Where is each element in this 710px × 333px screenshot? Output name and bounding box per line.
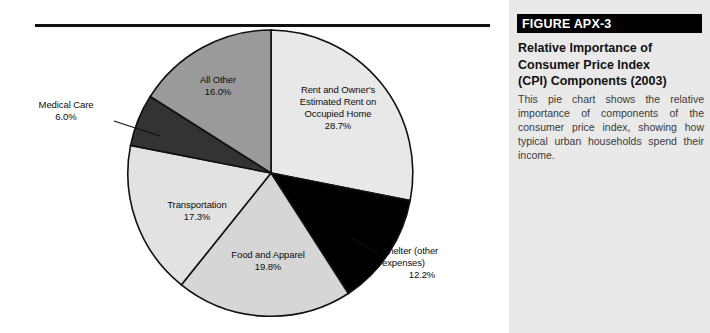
pie-label-transportation: Transportation 17.3% <box>146 199 248 223</box>
figure-title-line2: Consumer Price Index <box>518 58 650 72</box>
pie-label-rent: Rent and Owner's Estimated Rent on Occup… <box>278 84 398 132</box>
figure-title: Relative Importance of Consumer Price In… <box>518 40 704 90</box>
figure-title-line3: (CPI) Components (2003) <box>518 74 667 88</box>
pie-label-all-other-value: 16.0% <box>172 86 264 98</box>
pie-label-transportation-name: Transportation <box>167 199 227 210</box>
pie-label-food-and-apparel-value: 19.8% <box>212 261 324 273</box>
pie-label-shelter: Shelter (other expenses) 12.2% <box>382 245 472 281</box>
pie-label-all-other: All Other 16.0% <box>172 74 264 98</box>
pie-label-rent-line1: Rent and Owner's <box>301 84 375 95</box>
pie-label-transportation-value: 17.3% <box>146 211 248 223</box>
pie-label-medical-care-value: 6.0% <box>20 111 112 123</box>
pie-label-shelter-line2: expenses) <box>382 257 425 268</box>
pie-chart <box>0 0 500 333</box>
pie-label-rent-line2: Estimated Rent on <box>300 96 376 107</box>
figure-description: This pie chart shows the relative import… <box>518 92 704 162</box>
figure-number-bar: FIGURE APX-3 <box>517 14 702 33</box>
figure-number-label: FIGURE APX-3 <box>522 17 611 31</box>
pie-label-shelter-value: 12.2% <box>382 269 462 281</box>
pie-label-medical-care-name: Medical Care <box>39 99 94 110</box>
pie-label-medical-care: Medical Care 6.0% <box>20 99 112 123</box>
pie-label-rent-value: 28.7% <box>278 120 398 132</box>
figure-title-line1: Relative Importance of <box>518 41 652 55</box>
pie-label-shelter-line1: Shelter (other <box>382 245 438 256</box>
pie-label-rent-line3: Occupied Home <box>305 108 372 119</box>
pie-label-food-and-apparel-name: Food and Apparel <box>231 249 304 260</box>
pie-label-all-other-name: All Other <box>200 74 236 85</box>
chart-area: Rent and Owner's Estimated Rent on Occup… <box>0 0 500 333</box>
figure-caption-panel: FIGURE APX-3 Relative Importance of Cons… <box>509 0 710 333</box>
pie-label-food-and-apparel: Food and Apparel 19.8% <box>212 249 324 273</box>
